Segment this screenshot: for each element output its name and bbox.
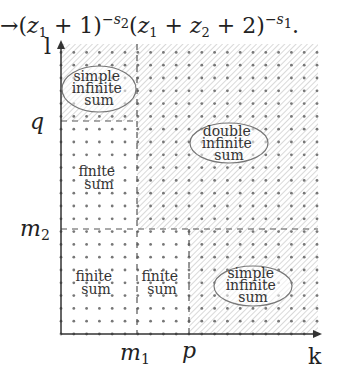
tick-label-p: p <box>182 338 196 363</box>
region-label-finite-left: finite sum <box>78 163 119 192</box>
y-axis-label: l <box>44 34 51 59</box>
region-label-finite-bottom-left: finite sum <box>75 268 116 297</box>
tick-label-q: q <box>30 109 44 134</box>
tick-label-m2: m2 <box>20 216 50 243</box>
x-axis-label: k <box>308 344 322 369</box>
region-label-finite-bottom-middle: finite sum <box>141 268 182 297</box>
summation-region-diagram: simple infinite sum finite sum double in… <box>0 0 351 381</box>
tick-label-m1: m1 <box>120 340 150 367</box>
